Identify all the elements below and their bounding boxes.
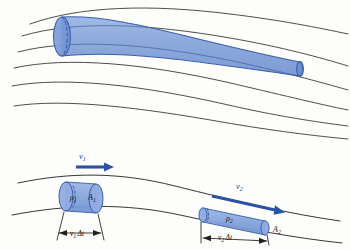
figure-canvas: v1 ρ1 A1 v1Δt xyxy=(0,0,350,250)
element-2-back-face xyxy=(199,208,207,222)
fluid-continuity-figure: v1 ρ1 A1 v1Δt xyxy=(0,0,350,250)
flow-tube xyxy=(18,17,348,90)
fluid-element-2: v2 ρ2 A2 v2Δt xyxy=(199,181,285,245)
fluid-element-1: v1 ρ1 A1 v1Δt xyxy=(57,151,114,240)
element-1-length-label: v1Δt xyxy=(70,229,85,239)
flow-tube-inlet-cap xyxy=(54,17,71,56)
element-2-velocity-label: v2 xyxy=(236,181,243,192)
element-2-length-label: v2Δt xyxy=(218,233,233,243)
streamline-5 xyxy=(12,82,348,126)
streamline-lower xyxy=(12,206,342,243)
element-2-body xyxy=(203,208,265,235)
element-2-area-label: A2 xyxy=(272,225,281,235)
element-1-velocity-label: v1 xyxy=(79,151,86,162)
element-2-front-face xyxy=(261,221,269,235)
element-1-velocity-arrow xyxy=(76,163,114,172)
streamline-6 xyxy=(14,103,348,139)
